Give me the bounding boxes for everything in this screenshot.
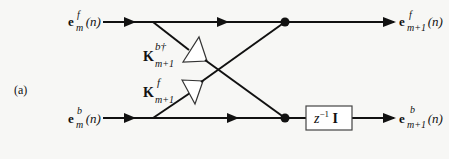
forward-input-label: efm(n)	[68, 15, 101, 28]
forward-output-arrowhead	[383, 17, 396, 27]
symbol-base: e	[399, 14, 405, 29]
symbol-base: e	[68, 14, 74, 29]
symbol-base: e	[68, 111, 74, 126]
backward-sum-node	[281, 114, 290, 123]
delay-block-label: z−1 I	[314, 109, 338, 127]
symbol-base: K	[143, 85, 154, 100]
symbol-sub: m	[76, 23, 83, 33]
backward-input-arrowhead	[124, 113, 136, 123]
symbol-arg: (n)	[86, 111, 101, 126]
symbol-sup: f	[77, 10, 80, 20]
symbol-sub: m+1	[155, 95, 174, 105]
lower-gain-triangle	[182, 80, 203, 104]
upper-gain-label: Kb†m+1	[143, 50, 154, 64]
delay-exponent: −1	[319, 109, 329, 119]
symbol-base: K	[143, 49, 154, 64]
upper-gain-triangle	[183, 37, 207, 62]
cross-line-to-backward	[205, 60, 285, 118]
forward-output-label: efm+1(n)	[399, 15, 443, 28]
panel-label: (a)	[14, 84, 27, 96]
lower-gain-label: Kfm+1	[143, 86, 154, 100]
symbol-arg: (n)	[428, 14, 443, 29]
symbol-sup: b	[410, 105, 415, 115]
backward-output-arrowhead	[383, 113, 396, 123]
symbol-sup: f	[409, 10, 412, 20]
symbol-sup: f	[157, 77, 160, 88]
symbol-arg: (n)	[86, 14, 101, 29]
backward-mid-arrowhead	[227, 113, 239, 123]
cross-line-to-forward	[201, 22, 285, 82]
symbol-sub: m+1	[407, 120, 426, 130]
symbol-sup: b†	[155, 41, 166, 52]
backward-input-label: ebm(n)	[68, 112, 101, 125]
symbol-sub: m+1	[155, 59, 174, 69]
forward-sum-node	[281, 18, 290, 27]
delay-matrix: I	[333, 111, 338, 126]
forward-input-arrowhead	[124, 17, 136, 27]
backward-output-label: ebm+1(n)	[399, 112, 443, 125]
symbol-base: e	[399, 111, 405, 126]
symbol-sub: m+1	[407, 23, 426, 33]
symbol-arg: (n)	[428, 111, 443, 126]
symbol-sub: m	[76, 120, 83, 130]
forward-mid-arrowhead	[217, 17, 229, 27]
symbol-sup: b	[77, 106, 82, 116]
